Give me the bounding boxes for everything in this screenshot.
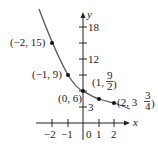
point-label-neg1: (−1, 9) (32, 68, 62, 81)
point-label-1-open: (1, (92, 76, 104, 89)
x-axis-label: x (132, 116, 138, 128)
x-tick-label-neg2: −2 (44, 128, 56, 140)
point-label-1-close: ) (113, 78, 117, 91)
point-label-2-open: (2, 3 (117, 96, 138, 109)
y-tick-label-12: 12 (88, 53, 99, 65)
exponential-decay-chart: x y 18 12 3 −2 −1 0 1 2 (−2, 15) (−1, 9)… (0, 0, 158, 154)
y-tick-label-18: 18 (88, 21, 100, 33)
y-axis-arrow-icon (81, 12, 86, 18)
point-label-neg2: (−2, 15) (10, 36, 46, 49)
point-label-2-close: ) (151, 97, 155, 110)
y-tick-label-3: 3 (88, 101, 94, 113)
point-label-1-den: 2 (107, 80, 113, 92)
x-tick-label-2: 2 (111, 128, 117, 140)
x-tick-label-1: 1 (96, 128, 102, 140)
y-axis-label: y (86, 8, 92, 20)
x-tick-label-0: 0 (86, 128, 92, 140)
x-tick-label-neg1: −1 (61, 128, 73, 140)
x-axis-arrow-icon (124, 121, 130, 126)
point-label-0: (0, 6) (58, 92, 82, 105)
